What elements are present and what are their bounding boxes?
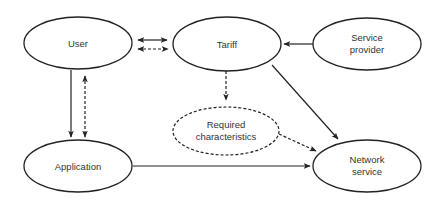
edge-tariff-networkservice: [272, 65, 338, 139]
required-characteristics-label-line2: characteristics: [196, 131, 257, 142]
application-label: Application: [55, 161, 101, 172]
required-characteristics-label-line1: Required: [207, 119, 246, 130]
service-provider-label-line2: provider: [350, 44, 384, 55]
user-label: User: [68, 38, 88, 49]
node-service-provider: Service provider: [313, 18, 421, 70]
network-service-label-line2: service: [352, 166, 382, 177]
network-service-label-line1: Network: [350, 154, 385, 165]
service-provider-label-line1: Service: [351, 32, 383, 43]
node-application: Application: [24, 140, 132, 192]
node-user: User: [24, 17, 132, 69]
node-network-service: Network service: [313, 140, 421, 192]
tariff-label: Tariff: [217, 39, 238, 50]
diagram-canvas: User Tariff Service provider Application…: [0, 0, 444, 203]
node-required-characteristics: Required characteristics: [173, 107, 279, 155]
node-tariff: Tariff: [173, 17, 281, 71]
edge-requiredcharacteristics-networkservice: [279, 134, 316, 151]
